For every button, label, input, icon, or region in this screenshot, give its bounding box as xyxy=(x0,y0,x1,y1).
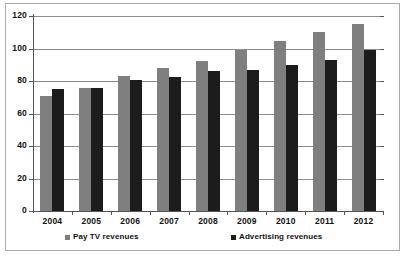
bar-group xyxy=(305,16,344,211)
square-marker-black-icon xyxy=(231,235,236,240)
plot-area xyxy=(33,16,383,211)
bar xyxy=(40,96,52,211)
bar xyxy=(169,77,181,211)
bar xyxy=(91,88,103,212)
y-axis-tick-label: 80 xyxy=(17,76,27,85)
bar xyxy=(247,70,259,211)
x-axis-tick-label: 2008 xyxy=(188,216,228,226)
y-axis-tick-label: 60 xyxy=(17,109,27,118)
x-axis-tick-label: 2005 xyxy=(71,216,111,226)
y-axis-tick-label: 120 xyxy=(12,11,27,20)
legend-item-pay-tv-revenues: Pay TV revenues xyxy=(65,232,139,242)
y-axis-line xyxy=(33,14,34,213)
chart-figure: 020406080100120 200420052006200720082009… xyxy=(0,0,407,257)
bar xyxy=(313,32,325,211)
x-axis-tick-label: 2012 xyxy=(344,216,384,226)
x-axis-tick-label: 2007 xyxy=(149,216,189,226)
y-axis-tick-label: 40 xyxy=(17,141,27,150)
bar xyxy=(208,71,220,211)
bar-group xyxy=(266,16,305,211)
x-axis-tick-label: 2004 xyxy=(32,216,72,226)
y-axis-tick-label: 100 xyxy=(12,44,27,53)
chart-legend: Pay TV revenues Advertising revenues xyxy=(33,232,383,244)
legend-label-pay-tv-revenues: Pay TV revenues xyxy=(73,232,139,242)
x-axis-tick-label: 2006 xyxy=(110,216,150,226)
bar-group xyxy=(72,16,111,211)
bar xyxy=(274,41,286,211)
bar xyxy=(118,76,130,211)
bar xyxy=(325,60,337,211)
x-axis-line xyxy=(33,211,384,212)
bar xyxy=(235,50,247,211)
bar xyxy=(130,80,142,211)
bar xyxy=(286,65,298,211)
bar xyxy=(352,24,364,211)
bar xyxy=(364,50,376,211)
x-axis-tick-label: 2010 xyxy=(266,216,306,226)
bar-group xyxy=(227,16,266,211)
bar xyxy=(157,68,169,211)
y-axis-tick-label: 20 xyxy=(17,174,27,183)
square-marker-gray-icon xyxy=(65,235,70,240)
y-axis-tick-label: 0 xyxy=(22,206,27,215)
x-axis-tick-label: 2009 xyxy=(227,216,267,226)
bar-group xyxy=(344,16,383,211)
bar xyxy=(196,61,208,211)
bar xyxy=(52,89,64,211)
legend-item-advertising-revenues: Advertising revenues xyxy=(231,232,322,242)
bar-group xyxy=(150,16,189,211)
bar xyxy=(79,88,91,212)
legend-label-advertising-revenues: Advertising revenues xyxy=(239,232,322,242)
bar-group xyxy=(33,16,72,211)
bar-group xyxy=(189,16,228,211)
bar-group xyxy=(111,16,150,211)
x-axis-tick-label: 2011 xyxy=(305,216,345,226)
